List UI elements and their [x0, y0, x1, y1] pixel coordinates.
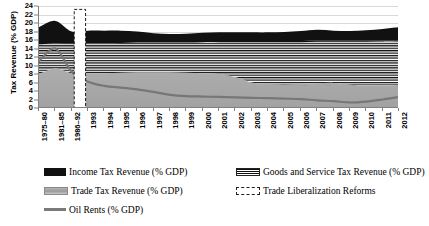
- x-tick-mark: [283, 108, 284, 111]
- stacked-area-series: [39, 6, 398, 108]
- y-tick-label: 12: [25, 53, 33, 61]
- y-tick-label: 16: [25, 36, 33, 44]
- x-tick-mark: [153, 108, 154, 111]
- x-tick-label: 2010: [368, 112, 376, 129]
- x-tick-mark: [87, 108, 88, 111]
- trade-liberalization-swatch-icon: [236, 187, 260, 195]
- y-tick-label: 18: [25, 28, 33, 36]
- y-tick-label: 14: [25, 45, 33, 53]
- trade-liberalization-reform-band: [74, 9, 85, 108]
- x-tick-mark: [136, 108, 137, 111]
- x-tick-label: 2001: [221, 112, 229, 129]
- x-tick-mark: [218, 108, 219, 111]
- legend-label: Trade Liberalization Reforms: [263, 186, 376, 196]
- legend-label: Oil Rents (% GDP): [69, 205, 143, 215]
- x-tick-mark: [398, 108, 399, 111]
- x-tick-mark: [71, 108, 72, 111]
- x-tick-label: 2006: [303, 112, 311, 129]
- legend-item-oil-rents: Oil Rents (% GDP): [44, 200, 219, 219]
- x-tick-mark: [120, 108, 121, 111]
- plot-area: [38, 6, 398, 108]
- income-tax-area: [39, 21, 398, 44]
- x-tick-label: 1994: [107, 112, 115, 129]
- x-tick-label: 1999: [188, 112, 196, 129]
- x-tick-mark: [103, 108, 104, 111]
- x-tick-label: 1981–85: [58, 112, 66, 141]
- legend-label: Trade Tax Revenue (% GDP): [71, 186, 183, 196]
- x-tick-label: 1997: [156, 112, 164, 129]
- x-tick-label: 2005: [287, 112, 295, 129]
- x-tick-label: 1986–92: [74, 112, 82, 141]
- x-tick-mark: [234, 108, 235, 111]
- gst-swatch-icon: [236, 168, 260, 176]
- income-tax-swatch-icon: [44, 168, 66, 176]
- x-tick-label: 1995: [123, 112, 131, 129]
- y-tick-label: 20: [25, 19, 33, 27]
- x-tick-mark: [316, 108, 317, 111]
- legend-label: Goods and Service Tax Revenue (% GDP): [263, 167, 425, 177]
- x-tick-label: 1975–80: [41, 112, 49, 141]
- x-tick-label: 2009: [352, 112, 360, 129]
- legend-item-income-tax: Income Tax Revenue (% GDP): [44, 162, 219, 181]
- x-tick-label: 2012: [401, 112, 409, 129]
- y-tick-label: 2: [29, 96, 33, 104]
- x-tick-mark: [349, 108, 350, 111]
- x-tick-label: 2004: [270, 112, 278, 129]
- y-tick-label: 8: [29, 70, 33, 78]
- x-axis-tick-labels: 1975–801981–851986–921993199419951996199…: [38, 108, 398, 156]
- legend-item-gst: Goods and Service Tax Revenue (% GDP): [236, 162, 429, 181]
- y-tick-label: 6: [29, 79, 33, 87]
- x-tick-label: 2000: [205, 112, 213, 129]
- x-tick-mark: [382, 108, 383, 111]
- legend-column-right: Goods and Service Tax Revenue (% GDP) Tr…: [236, 162, 429, 200]
- chart-legend: Income Tax Revenue (% GDP) Trade Tax Rev…: [44, 162, 414, 222]
- x-tick-mark: [54, 108, 55, 111]
- x-tick-label: 2003: [254, 112, 262, 129]
- y-tick-label: 10: [25, 62, 33, 70]
- x-tick-mark: [267, 108, 268, 111]
- x-tick-mark: [38, 108, 39, 111]
- y-tick-label: 24: [25, 2, 33, 10]
- x-tick-mark: [333, 108, 334, 111]
- x-tick-mark: [300, 108, 301, 111]
- x-tick-mark: [365, 108, 366, 111]
- legend-item-trade-tax: Trade Tax Revenue (% GDP): [44, 181, 219, 200]
- x-tick-label: 1996: [139, 112, 147, 129]
- x-tick-mark: [202, 108, 203, 111]
- legend-item-trade-liberalization: Trade Liberalization Reforms: [236, 181, 429, 200]
- x-tick-label: 2008: [336, 112, 344, 129]
- y-axis-tick-labels: 024681012141618202224: [0, 6, 36, 108]
- legend-column-left: Income Tax Revenue (% GDP) Trade Tax Rev…: [44, 162, 219, 219]
- x-tick-label: 2002: [238, 112, 246, 129]
- x-tick-label: 2011: [385, 112, 393, 128]
- y-tick-label: 4: [29, 87, 33, 95]
- y-tick-label: 22: [25, 11, 33, 19]
- x-tick-mark: [185, 108, 186, 111]
- x-tick-label: 1998: [172, 112, 180, 129]
- oil-rents-swatch-icon: [44, 208, 66, 211]
- x-tick-mark: [251, 108, 252, 111]
- y-tick-label: 0: [29, 104, 33, 112]
- trade-tax-swatch-icon: [44, 187, 68, 195]
- x-tick-label: 2007: [319, 112, 327, 129]
- x-tick-mark: [169, 108, 170, 111]
- x-tick-label: 1993: [90, 112, 98, 129]
- legend-label: Income Tax Revenue (% GDP): [69, 167, 187, 177]
